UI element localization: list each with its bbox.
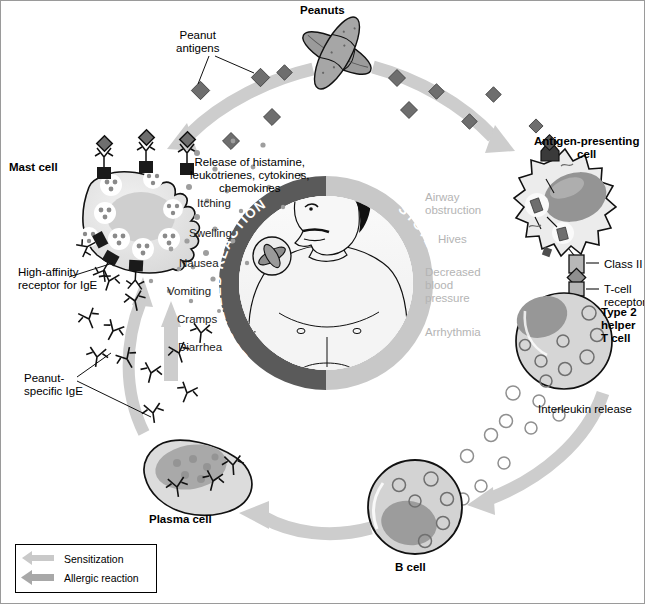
- th2-cell: [510, 289, 612, 389]
- systemic-symptom: Decreased blood pressure: [425, 266, 481, 306]
- legend-box: Sensitization Allergic reaction: [15, 544, 157, 593]
- b-cell: [368, 460, 462, 554]
- t-cell-receptor-label: T-cell receptor: [604, 283, 645, 309]
- peanuts-label: Peanuts: [300, 4, 345, 17]
- diagram-canvas: LOCALIZED REACTIONS SYSTEMIC REACTIONS: [0, 0, 645, 604]
- legend-label-sensitization: Sensitization: [64, 553, 124, 565]
- peanut-specific-ige-label: Peanut- specific IgE: [24, 372, 83, 398]
- legend-arrow-allergic-reaction: [21, 570, 54, 585]
- localized-symptom: Itching: [197, 197, 231, 210]
- systemic-symptom: Arrhythmia: [425, 326, 481, 339]
- diagram-graphics: LOCALIZED REACTIONS SYSTEMIC REACTIONS: [1, 1, 645, 604]
- plasma-cell: [144, 439, 252, 515]
- localized-symptom: Vomiting: [167, 285, 211, 298]
- localized-symptom: Nausea: [179, 257, 219, 270]
- apc-label: Antigen-presenting cell: [534, 135, 639, 161]
- antigen-leader-lines: [198, 56, 254, 84]
- peanuts-illustration: [297, 11, 376, 95]
- interleukin-release-label: Interleukin release: [538, 403, 632, 416]
- plasma-cell-label: Plasma cell: [149, 513, 212, 526]
- systemic-symptom: Airway obstruction: [425, 191, 481, 217]
- localized-symptom: Swelling: [189, 227, 232, 240]
- mast-cell-label: Mast cell: [9, 161, 58, 174]
- class-ii-label: Class II: [604, 258, 642, 271]
- peanut-antigens-label: Peanut antigens: [176, 29, 219, 55]
- mediator-release-label: Release of histamine, leukotrienes, cyto…: [190, 156, 310, 195]
- systemic-symptom: Hives: [438, 233, 467, 246]
- arrow-bcell-to-plasmacell: [239, 501, 371, 534]
- th2-cell-label: Type 2 helper T cell: [601, 306, 637, 345]
- localized-symptom: Cramps: [177, 313, 217, 326]
- high-affinity-receptor-label: High-affinity receptor for IgE: [18, 266, 97, 292]
- mhc-tcr-complex: [567, 255, 599, 296]
- b-cell-label: B cell: [395, 561, 426, 574]
- localized-symptom: Diarrhea: [178, 341, 222, 354]
- legend-label-allergic-reaction: Allergic reaction: [64, 572, 139, 584]
- legend-arrow-sensitization: [22, 551, 54, 565]
